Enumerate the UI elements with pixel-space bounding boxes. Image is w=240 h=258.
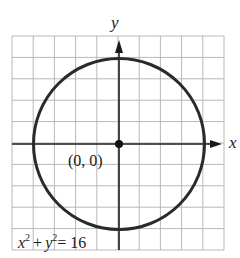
y-axis-label: y — [109, 13, 119, 32]
equation-x: x — [17, 234, 25, 251]
equation-rhs: = 16 — [57, 234, 86, 251]
center-point — [115, 140, 123, 148]
circle-graph: x y (0, 0) x2+y2= 16 — [0, 0, 240, 258]
svg-text:x2+y2= 16: x2+y2= 16 — [17, 232, 86, 252]
x-axis-label: x — [228, 133, 237, 152]
equation-x-exp: 2 — [25, 232, 30, 243]
x-axis-arrow-icon — [210, 140, 222, 148]
equation-plus: + — [33, 234, 42, 251]
y-axis-arrow-icon — [115, 40, 123, 53]
center-label: (0, 0) — [68, 152, 103, 170]
equation-label: x2+y2= 16 — [17, 232, 86, 252]
